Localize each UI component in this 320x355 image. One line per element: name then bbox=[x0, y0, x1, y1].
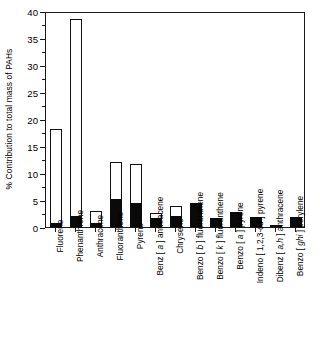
x-axis-label: Pyrene bbox=[129, 236, 142, 352]
x-axis-label-text: Benzo [ a ] pyrene bbox=[235, 202, 246, 269]
x-axis-label-text: Pyrene bbox=[135, 223, 146, 249]
chart-figure: % Contribution to total mass of PAHs 051… bbox=[0, 0, 320, 355]
x-axis-label-text: Benzo [ k ] fluoranthene bbox=[215, 192, 226, 280]
x-axis-label-text: Dibenz [ a,h ] anthracene bbox=[275, 190, 286, 283]
x-axis-label: Benz [ a ] anthracene bbox=[149, 236, 162, 352]
x-axis-label: Chrysene bbox=[169, 236, 182, 352]
x-axis-label-text: Phenanthrene bbox=[75, 210, 86, 262]
x-axis-label-text: Chrysene bbox=[175, 218, 186, 254]
x-axis-label: Dibenz [ a,h ] anthracene bbox=[269, 236, 282, 352]
x-axis-label: Phenanthrene bbox=[69, 236, 82, 352]
x-axis-label: Benzo [ a ] pyrene bbox=[229, 236, 242, 352]
x-axis-label-text: Anthracene bbox=[95, 215, 106, 257]
x-axis-label-text: Benz [ a ] anthracene bbox=[155, 197, 166, 276]
x-axis-label-text: Fluorene bbox=[55, 220, 66, 253]
x-axis-label: Benzo [ k ] fluoranthene bbox=[209, 236, 222, 352]
x-axis-label: Fluoranthene bbox=[109, 236, 122, 352]
x-axis-label: Anthracene bbox=[89, 236, 102, 352]
x-axis-label: Benzo [ b ] fluoranthene bbox=[189, 236, 202, 352]
x-axis-label: Indeno [ 1,2,3-cd ] pyrene bbox=[249, 236, 262, 352]
x-axis-label: Fluorene bbox=[49, 236, 62, 352]
x-axis-label-text: Benzo [ ghi ] perylene bbox=[295, 196, 306, 276]
x-axis-label-text: Fluoranthene bbox=[115, 212, 126, 261]
x-axis-label-text: Benzo [ b ] fluoranthene bbox=[195, 192, 206, 280]
x-axis-label-text: Indeno [ 1,2,3-cd ] pyrene bbox=[255, 189, 266, 284]
x-axis-label: Benzo [ ghi ] perylene bbox=[289, 236, 302, 352]
x-axis-labels: FluorenePhenanthreneAnthraceneFluoranthe… bbox=[0, 0, 320, 355]
